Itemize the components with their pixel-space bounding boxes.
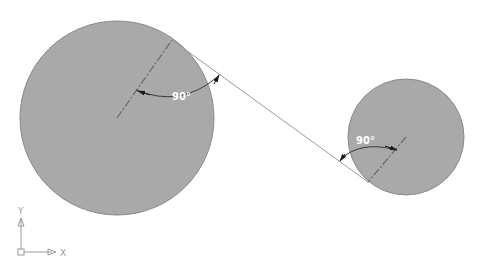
drawing-canvas[interactable]: 90° 90° Y X [0,0,481,275]
ucs-origin-square-icon [18,249,24,255]
angle-label-large: 90° [172,91,191,102]
x-axis-label: X [60,248,66,258]
y-axis-label: Y [17,206,24,216]
ucs-icon: Y X [17,206,66,258]
angle-label-small: 90° [356,135,375,146]
